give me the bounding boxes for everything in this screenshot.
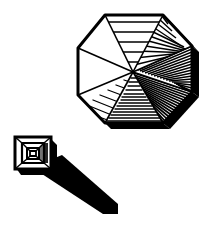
dome-apex — [131, 70, 134, 73]
lantern-ring-4 — [30, 151, 36, 156]
octagonal-dome — [78, 15, 199, 129]
engraving-illustration — [0, 0, 219, 226]
figure-canvas: Octagonal vaulted dome and square steppe… — [0, 0, 219, 226]
square-lantern — [15, 137, 57, 175]
